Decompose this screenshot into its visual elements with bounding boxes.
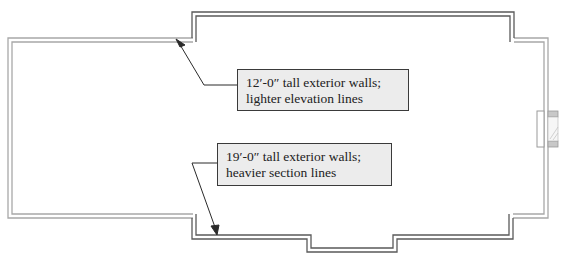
- callout-light-walls-line2: lighter elevation lines: [246, 91, 402, 107]
- arrowhead-heavy: [211, 225, 219, 235]
- leader-line-light: [179, 43, 237, 85]
- light-exterior-walls: [8, 38, 548, 218]
- arrowhead-light: [176, 39, 185, 47]
- callout-heavy-walls-line1: 19′-0″ tall exterior walls;: [226, 149, 385, 165]
- heavy-exterior-walls: [192, 12, 514, 252]
- callout-light-walls-line1: 12′-0″ tall exterior walls;: [246, 75, 402, 91]
- floor-plan: [0, 0, 576, 259]
- leader-arrows: [176, 39, 237, 235]
- callout-heavy-walls-line2: heavier section lines: [226, 165, 385, 181]
- callout-heavy-walls: 19′-0″ tall exterior walls; heavier sect…: [217, 143, 392, 186]
- callout-light-walls: 12′-0″ tall exterior walls; lighter elev…: [237, 69, 409, 111]
